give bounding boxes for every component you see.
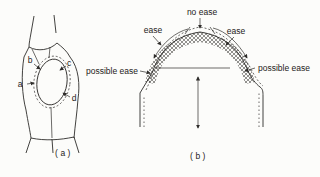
figure-a-caption: (a): [55, 148, 73, 158]
possible-ease-right-label: possible ease: [258, 63, 310, 73]
neck-edge-left: [29, 33, 31, 47]
figure-b-sleeve-cap: no ease ease ease possible ease possible…: [86, 7, 310, 161]
point-a-arrow: [27, 83, 34, 84]
ease-right-label: ease: [227, 26, 246, 36]
ease-hatch-band: [150, 37, 250, 83]
point-d-arrow: [63, 93, 70, 97]
side-seam-left: [22, 57, 31, 138]
point-c-label: c: [67, 58, 72, 68]
neckline-curve: [29, 43, 57, 50]
waistline: [31, 137, 74, 140]
figure-a-bodice: a b c d (a): [18, 15, 79, 158]
ease-left-arrow: [153, 36, 161, 45]
shoulder-right: [57, 43, 70, 57]
neck-line-right: [54, 15, 56, 33]
figure-b-caption: (b): [190, 151, 208, 161]
diagram-canvas: a b c d (a): [0, 0, 320, 177]
hip-line-left: [26, 138, 31, 153]
possible-ease-left-label: possible ease: [86, 66, 138, 76]
shoulder-dart-line: [32, 49, 39, 64]
panel-line-lower: [51, 107, 52, 138]
no-ease-tick-left: [185, 27, 190, 34]
ease-left-label: ease: [144, 25, 163, 35]
point-b-arrow: [34, 64, 40, 69]
neck-line-left: [31, 16, 34, 33]
panel-line-upper: [49, 47, 50, 58]
hip-line-right: [74, 137, 79, 153]
point-b-label: b: [28, 55, 33, 65]
no-ease-label: no ease: [187, 7, 218, 17]
hip-line-center: [52, 139, 53, 153]
point-d-label: d: [72, 93, 77, 103]
point-a-label: a: [18, 79, 23, 89]
armhole-cutline: [34, 57, 70, 107]
sewing-ease-diagram: a b c d (a): [0, 0, 320, 177]
